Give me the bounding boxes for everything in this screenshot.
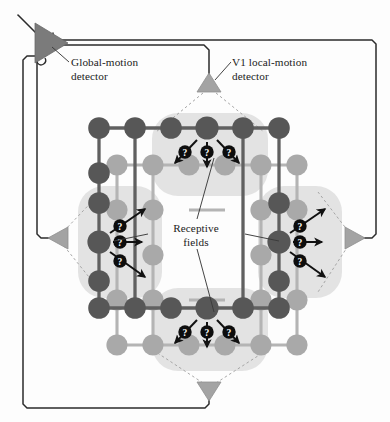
v1-detector-top[interactable] (197, 73, 221, 92)
leader-rf-down (197, 249, 214, 312)
leader-rf-left (114, 234, 148, 241)
wire-global-output (18, 15, 37, 34)
leader-v1 (215, 62, 231, 80)
detectors-and-wiring-layer (0, 0, 390, 422)
v1-detector-bottom[interactable] (197, 382, 221, 401)
receptive-fields-label: Receptive fields (150, 222, 242, 249)
v1-detector-left[interactable] (48, 227, 68, 249)
wire-left (37, 53, 50, 238)
leader-lines (52, 47, 279, 312)
v1-detector-right[interactable] (345, 227, 365, 249)
leader-rf-right (245, 234, 279, 241)
leader-global (52, 47, 69, 62)
global-motion-detector-label: Global-motion detector (71, 56, 138, 83)
leader-rf-up (197, 158, 214, 219)
v1-local-motion-detector-label: V1 local-motion detector (232, 56, 307, 83)
figure-canvas: ? ? ? ? ? ? ? ? ? ? ? ? (0, 0, 390, 422)
